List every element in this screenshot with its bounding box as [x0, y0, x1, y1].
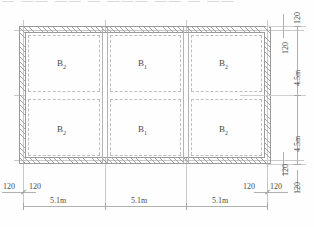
panel-dash-bottom-mid-right — [180, 99, 181, 155]
dim-vertical-bay-top: 4.5m — [293, 70, 302, 86]
panel-dash-bottom-right-bottom — [191, 155, 262, 156]
panel-dash-top-mid-top — [110, 35, 181, 36]
dim-tick-bottom-a — [23, 203, 24, 210]
panel-dash-bottom-right-left — [191, 99, 192, 155]
panel-dash-bottom-mid-bottom — [110, 155, 181, 156]
dim-chain-horizontal-right-wall — [254, 192, 288, 193]
dim-left-wall-120b: 120 — [29, 182, 41, 191]
panel-dash-top-mid-right — [180, 35, 181, 91]
header-text: — —— —— — ——— —— — —— — [2, 0, 235, 8]
panel-label-bottom-left: B2 — [57, 124, 66, 136]
panel-dash-bottom-right-top — [191, 99, 262, 100]
dim-tick-bottom-d — [267, 203, 268, 210]
panel-dash-bottom-left-left — [28, 99, 29, 155]
dim-vertical-far-top-120: 120 — [293, 12, 302, 24]
panel-dash-top-left-bottom — [28, 91, 100, 92]
panel-dash-bottom-mid-top — [110, 99, 181, 100]
panel-dash-bottom-right-right — [261, 99, 262, 155]
dim-tick-bottom-c — [186, 203, 187, 210]
dim-chain-vertical-wall — [283, 14, 284, 38]
interior-beam-vertical-1 — [102, 27, 103, 163]
dim-vertical-bay-bottom: 4.5m — [293, 136, 302, 152]
panel-label-top-left: B2 — [57, 58, 66, 70]
panel-dash-top-mid-left — [110, 35, 111, 91]
dim-tick-right-2 — [294, 95, 301, 96]
dim-vertical-bottom-wall-120a: 120 — [281, 164, 290, 176]
panel-dash-top-right-top — [191, 35, 262, 36]
dim-vertical-top-wall-120: 120 — [281, 42, 290, 54]
panel-label-top-right: B2 — [219, 58, 228, 70]
dim-chain-horizontal-left-wall — [2, 192, 36, 193]
panel-dash-top-right-left — [191, 35, 192, 91]
dim-tick-bottom-b — [105, 203, 106, 210]
panel-dash-top-left-right — [99, 35, 100, 91]
interior-face-outline — [25, 32, 265, 158]
interior-beam-vertical-2b — [188, 27, 189, 163]
dim-bay-horizontal-3: 5.1m — [212, 196, 228, 205]
interior-beam-vertical-2 — [183, 27, 184, 163]
dim-right-wall-120b: 120 — [270, 182, 282, 191]
panel-dash-top-left-top — [28, 35, 100, 36]
dim-chain-horizontal-main — [23, 206, 267, 207]
dim-tick-right-3 — [294, 164, 301, 165]
panel-dash-top-mid-bottom — [110, 91, 181, 92]
dim-left-wall-120a: 120 — [3, 182, 15, 191]
panel-label-bottom-mid: B1 — [138, 124, 147, 136]
panel-dash-top-right-right — [261, 35, 262, 91]
dim-tick-right-1 — [294, 26, 301, 27]
dim-bay-horizontal-2: 5.1m — [131, 196, 147, 205]
panel-dash-bottom-left-right — [99, 99, 100, 155]
panel-dash-bottom-left-top — [28, 99, 100, 100]
dim-bay-horizontal-1: 5.1m — [50, 196, 66, 205]
panel-dash-top-left-left — [28, 35, 29, 91]
panel-dash-bottom-left-bottom — [28, 155, 100, 156]
panel-label-bottom-right: B2 — [219, 124, 228, 136]
interior-beam-vertical-1b — [107, 27, 108, 163]
panel-dash-top-right-bottom — [191, 91, 262, 92]
dim-vertical-bottom-wall-120b: 120 — [293, 182, 302, 194]
panel-dash-bottom-mid-left — [110, 99, 111, 155]
dim-right-wall-120a: 120 — [243, 182, 255, 191]
panel-label-top-mid: B1 — [138, 58, 147, 70]
header-text-strip: — —— —— — ——— —— — —— — [0, 0, 314, 11]
floor-plan-drawing: — —— —— — ——— —— — —— B2 B1 B2 — [0, 0, 314, 227]
